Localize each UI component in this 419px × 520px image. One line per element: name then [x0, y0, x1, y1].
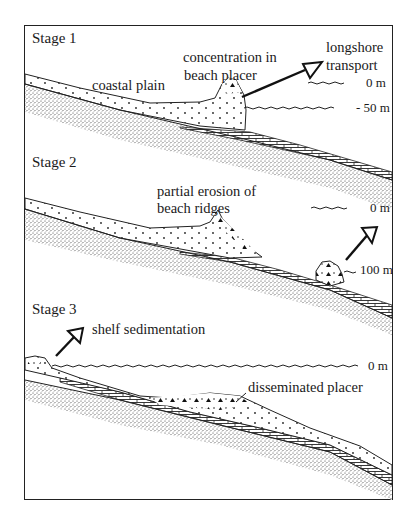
sea-level-50m-wave [244, 107, 334, 109]
erosion-label-line1: partial erosion of [157, 183, 256, 199]
stage-1-label: Stage 1 [32, 30, 77, 46]
sea-level-0m-label: 0 m [370, 200, 390, 215]
sea-level-0m-wave [52, 365, 358, 367]
placer-label-line1: concentration in [183, 49, 278, 65]
erosion-label-line2: beach ridges [157, 200, 230, 216]
placer-label-line2: beach placer [184, 67, 257, 83]
shelf-transport-arrow-icon [56, 328, 83, 356]
stage-2-label: Stage 2 [32, 154, 77, 170]
sea-level-0m-wave [311, 207, 347, 209]
stage-3: Stage 3 shelf sedimentation disseminated… [25, 301, 392, 500]
sea-level-0m-label: 0 m [366, 75, 386, 90]
sea-level-100m-label: 100 m [360, 262, 393, 277]
sea-level-0m-label: 0 m [368, 358, 388, 373]
transport-label-line2: transport [326, 57, 378, 73]
stage-3-label: Stage 3 [32, 301, 77, 317]
sea-level-0m-wave [308, 82, 344, 84]
sea-level-50m-label: - 50 m [356, 100, 390, 115]
sea-level-100m-wave [344, 271, 356, 273]
transport-label-line1: longshore [326, 39, 383, 55]
shelf-sedimentation-label: shelf sedimentation [92, 321, 206, 337]
disseminated-placer-label: disseminated placer [248, 379, 363, 395]
offshore-placer-mound [316, 261, 344, 286]
transport-arrow-icon [346, 227, 377, 260]
placer-formation-diagram: Stage 1 coastal plain concentration in b… [0, 0, 419, 520]
coastal-plain-label: coastal plain [92, 77, 166, 93]
